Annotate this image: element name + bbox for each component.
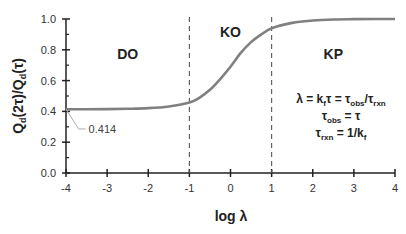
y-axis-title: Qd(2τ)/Qd(τ): [10, 58, 28, 134]
y-axis-title-text: Qd(2τ)/Qd(τ): [10, 58, 28, 134]
value-annotation: 0.414: [66, 109, 116, 135]
region-label-do: DO: [117, 46, 138, 62]
x-tick-label: -2: [143, 182, 153, 194]
x-tick-label: -1: [184, 182, 194, 194]
y-tick-label: 0.6: [41, 75, 56, 87]
x-tick-label: -4: [61, 182, 71, 194]
x-tick-label: 3: [351, 182, 357, 194]
x-tick-label: 2: [310, 182, 316, 194]
equation-lambda: λ = kfτ = τobs/τrxn: [296, 92, 386, 108]
x-tick-label: 1: [269, 182, 275, 194]
x-tick-label: 0: [227, 182, 233, 194]
equations: λ = kfτ = τobs/τrxn τobs = τ τrxn = 1/kf: [296, 92, 386, 142]
y-tick-label: 0.8: [41, 44, 56, 56]
x-tick-label: 4: [392, 182, 398, 194]
x-tick-label: -3: [102, 182, 112, 194]
annotation-label: 0.414: [89, 123, 117, 135]
region-labels: DOKOKP: [117, 24, 343, 62]
annotation-leader-line: [66, 109, 86, 129]
y-tick-label: 0.0: [41, 167, 56, 179]
equation-tau-obs: τobs = τ: [322, 109, 361, 125]
y-tick-label: 0.2: [41, 136, 56, 148]
region-label-kp: KP: [324, 46, 343, 62]
region-label-ko: KO: [220, 24, 241, 40]
y-tick-label: 1.0: [41, 13, 56, 25]
y-tick-label: 0.4: [41, 105, 56, 117]
equation-tau-rxn: τrxn = 1/kf: [316, 126, 367, 142]
x-axis-title: log λ: [215, 208, 248, 224]
chart: Qd(2τ)/Qd(τ) 0.00.20.40.60.81.0-4-3-2-10…: [0, 0, 406, 234]
